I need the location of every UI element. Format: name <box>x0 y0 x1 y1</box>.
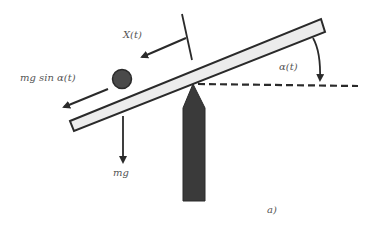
horizontal-reference-line <box>198 84 358 86</box>
angle-arc-arrow <box>313 38 320 80</box>
position-reference-tick <box>182 14 192 60</box>
angle-label: α(t) <box>279 61 298 72</box>
force-along-beam-arrow <box>64 89 108 107</box>
force-along-beam-label: mg sin α(t) <box>20 72 76 83</box>
ball-and-beam-diagram: X(t) mg sin α(t) mg α(t) a) <box>0 0 373 228</box>
ball <box>113 70 132 89</box>
weight-label: mg <box>113 167 129 178</box>
fulcrum <box>183 84 205 201</box>
panel-label: a) <box>267 204 277 215</box>
position-label: X(t) <box>123 29 142 40</box>
position-arrow <box>142 38 186 57</box>
